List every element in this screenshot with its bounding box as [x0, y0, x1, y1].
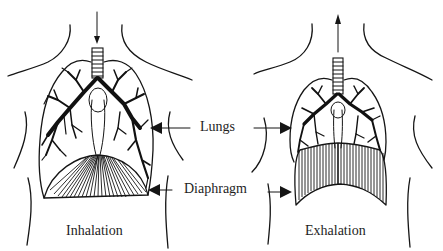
inhalation-caption: Inhalation [66, 224, 123, 238]
lungs-pointer-right-icon [254, 122, 292, 134]
diaphragm-left [44, 155, 148, 198]
diaphragm-right [295, 143, 387, 205]
trachea-left [92, 48, 103, 78]
diaphragm-pointer-right-icon [268, 186, 292, 198]
torso-outline-left [8, 25, 192, 248]
air-in-arrow-icon [94, 12, 100, 44]
air-out-arrow-icon [335, 14, 341, 52]
exhalation-caption: Exhalation [305, 224, 366, 238]
trachea-right [333, 58, 343, 94]
diaphragm-pointer-left-icon [148, 184, 172, 196]
exhalation-figure [252, 14, 432, 247]
lungs-pointer-left-icon [150, 122, 190, 134]
inhalation-figure [8, 12, 192, 248]
bronchial-tree-right [298, 86, 380, 152]
diaphragm-label: Diaphragm [184, 182, 247, 196]
lungs-label: Lungs [200, 120, 235, 134]
